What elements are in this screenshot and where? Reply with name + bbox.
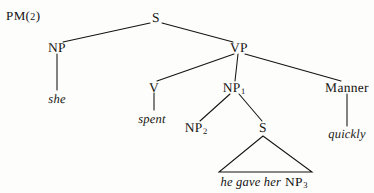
node-np1: NP1 [223, 81, 245, 95]
terminal-embedded-phrase-italic: he gave her [221, 175, 282, 189]
node-s-embedded-label: S [259, 120, 267, 135]
figure-canvas: PM(2) S NP VP V NP1 Manner [0, 0, 374, 193]
terminal-spent-text: spent [138, 112, 165, 126]
branch-np1-to-s [239, 94, 262, 121]
node-np2-subscript: 2 [203, 126, 208, 136]
node-s-embedded: S [259, 121, 267, 135]
branch-vp-to-np1 [235, 54, 238, 81]
terminal-embedded-np3-label: NP [281, 174, 303, 189]
node-np1-subscript: 1 [241, 86, 246, 96]
node-np2: NP2 [185, 121, 207, 135]
node-np2-label: NP [185, 120, 203, 135]
node-vp: VP [230, 41, 248, 55]
node-np-subject: NP [48, 41, 66, 55]
terminal-embedded-phrase: he gave herNP3 [221, 173, 308, 189]
terminal-she: she [48, 93, 65, 106]
terminal-quickly: quickly [328, 128, 366, 141]
node-np1-label: NP [223, 80, 241, 95]
terminal-spent: spent [138, 113, 165, 126]
node-manner: Manner [325, 81, 369, 95]
terminal-she-text: she [48, 92, 65, 106]
embedded-phrase-triangle [219, 136, 312, 172]
node-v: V [149, 81, 159, 95]
node-vp-label: VP [230, 40, 248, 55]
node-np-subject-label: NP [48, 40, 66, 55]
branch-vp-to-v [157, 54, 234, 81]
terminal-quickly-text: quickly [328, 127, 366, 141]
branch-s-to-np [63, 23, 150, 42]
node-s-root-label: S [152, 10, 160, 25]
node-v-label: V [149, 80, 159, 95]
branch-vp-to-manner [245, 54, 341, 81]
node-manner-label: Manner [325, 80, 369, 95]
node-s-root: S [152, 11, 160, 25]
terminal-embedded-np3-subscript: 3 [303, 180, 308, 190]
branch-np1-to-np2 [200, 94, 230, 121]
branch-s-to-vp [162, 23, 233, 42]
